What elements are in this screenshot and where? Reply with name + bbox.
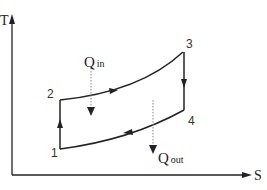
state-label-2: 2: [47, 87, 54, 101]
state-label-1: 1: [51, 146, 58, 160]
process-2-3: [60, 52, 183, 100]
heat-out: Qout: [149, 100, 184, 166]
heat-in: Qin: [84, 54, 105, 116]
ts-diagram: T S Qin Qout 2 1 3 4: [0, 0, 267, 190]
y-axis-arrow-icon: [9, 14, 15, 24]
x-axis: [12, 172, 252, 178]
x-axis-arrow-icon: [242, 172, 252, 178]
arrow-down-icon: [181, 79, 187, 88]
y-axis: [9, 14, 15, 175]
heat-in-label: Qin: [84, 54, 105, 70]
heat-out-label: Qout: [158, 150, 184, 166]
y-axis-label: T: [0, 13, 9, 28]
x-axis-label: S: [254, 168, 262, 183]
arrow-up-icon: [57, 119, 63, 128]
cycle: [57, 52, 187, 149]
process-4-1: [60, 110, 184, 149]
heat-in-arrow-icon: [87, 107, 95, 116]
state-label-4: 4: [188, 114, 195, 128]
state-label-3: 3: [186, 37, 193, 51]
heat-out-arrow-icon: [149, 145, 157, 154]
